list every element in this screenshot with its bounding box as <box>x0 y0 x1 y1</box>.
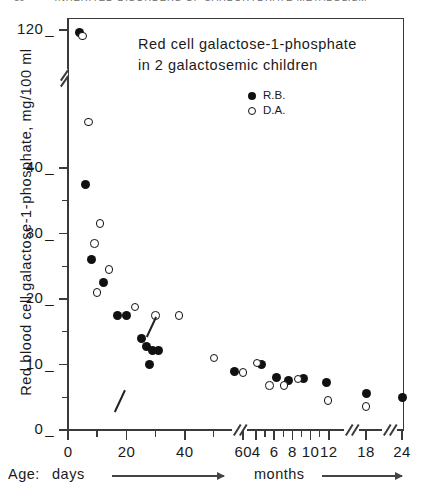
x-tick-month-24 <box>401 431 403 440</box>
y-tick-10 <box>59 364 68 366</box>
y-tick-label-40: 40_ <box>14 158 54 175</box>
x-tick-minor-month-11 <box>319 431 320 437</box>
days-arrow-icon <box>112 475 224 477</box>
legend-label-da: D.A. <box>263 103 285 118</box>
x-tick-day-20 <box>126 431 128 440</box>
running-head-text: INHERITED DISORDERS OF CARBOHYDRATE META… <box>0 0 422 3</box>
filled-circle-icon <box>248 92 256 100</box>
y-axis-title: Red blood cell galactose-1-phosphate, mg… <box>18 0 34 445</box>
x-tick-month-4 <box>255 431 257 440</box>
x-axis-break-icon-1 <box>230 422 250 439</box>
months-arrow-icon <box>322 475 402 477</box>
x-tick-label-day-20: 20 <box>109 443 143 460</box>
x-tick-label-month-12: 12 <box>312 443 346 460</box>
y-tick-label-120: 120_ <box>14 20 54 37</box>
data-point-rb <box>122 311 131 320</box>
y-tick-label-0: 0_ <box>14 420 54 437</box>
x-tick-minor-month-5 <box>264 431 265 437</box>
data-point-da <box>93 288 102 297</box>
x-tick-minor-month-7 <box>283 431 284 437</box>
y-tick-20 <box>59 298 68 300</box>
x-tick-day-0 <box>67 431 69 440</box>
x-tick-month-18 <box>365 431 367 440</box>
data-point-rb <box>99 278 108 287</box>
y-tick-label-30: 30_ <box>14 224 54 241</box>
x-tick-month-8 <box>292 431 294 440</box>
data-point-da <box>324 396 333 405</box>
x-tick-month-12 <box>328 431 330 440</box>
y-tick-label-10: 10_ <box>14 355 54 372</box>
y-tick-minor-35 <box>62 200 68 201</box>
y-tick-minor-5 <box>62 397 68 398</box>
days-segment-label: days <box>52 466 85 482</box>
y-tick-minor-15 <box>62 331 68 332</box>
x-axis-break-icon-2 <box>342 422 362 439</box>
age-axis-label: Age: <box>8 466 40 482</box>
data-point-da <box>175 311 184 320</box>
data-point-da <box>90 239 99 248</box>
data-point-da <box>239 368 248 377</box>
y-tick-label-20: 20_ <box>14 289 54 306</box>
x-tick-label-day-40: 40 <box>168 443 202 460</box>
y-tick-120 <box>59 29 68 31</box>
legend-entry-da: D.A. <box>248 103 285 118</box>
data-point-rb <box>272 373 281 382</box>
x-tick-month-10 <box>310 431 312 440</box>
data-point-rb <box>81 180 90 189</box>
legend-entry-rb: R.B. <box>248 88 285 103</box>
data-point-rb <box>230 367 239 376</box>
data-point-da <box>78 32 87 41</box>
x-tick-minor-month-9 <box>301 431 302 437</box>
y-tick-30 <box>59 233 68 235</box>
running-head: 30 INHERITED DISORDERS OF CARBOHYDRATE M… <box>0 0 422 9</box>
chart-title-line-1: Red cell galactose-1-phosphate <box>138 34 357 55</box>
y-tick-40 <box>59 167 68 169</box>
x-tick-minor-day-50 <box>213 431 214 437</box>
x-tick-minor-day-10 <box>96 431 97 437</box>
data-point-da <box>105 265 114 274</box>
data-point-da <box>265 381 274 390</box>
y-axis-break-icon <box>58 69 76 88</box>
chart-title: Red cell galactose-1-phosphate in 2 gala… <box>138 34 357 76</box>
data-point-rb <box>398 393 407 402</box>
data-point-rb <box>87 255 96 264</box>
months-segment-label: months <box>254 466 305 482</box>
x-tick-day-40 <box>184 431 186 440</box>
data-point-rb <box>154 346 163 355</box>
data-point-rb <box>362 389 371 398</box>
data-point-da <box>280 381 289 390</box>
data-point-rb <box>113 311 122 320</box>
x-tick-month-6 <box>273 431 275 440</box>
x-tick-minor-day-30 <box>155 431 156 437</box>
age-axis-row: Age: days months <box>0 466 422 490</box>
x-tick-label-month-24: 24 <box>385 443 419 460</box>
x-axis-break-icon-3 <box>380 422 400 439</box>
chart-title-line-2: in 2 galactosemic children <box>138 55 357 76</box>
legend-label-rb: R.B. <box>263 88 285 103</box>
data-point-da <box>84 118 93 127</box>
data-point-da <box>362 402 371 411</box>
x-tick-label-day-0: 0 <box>51 443 85 460</box>
y-tick-minor-25 <box>62 266 68 267</box>
x-tick-label-month-18: 18 <box>349 443 383 460</box>
open-circle-icon <box>248 107 256 115</box>
legend: R.B. D.A. <box>248 88 285 118</box>
